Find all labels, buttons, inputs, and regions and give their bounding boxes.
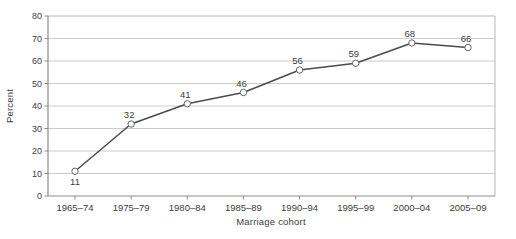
x-tick-label-5: 1995–99: [337, 202, 374, 213]
y-tick-label-30: 30: [32, 124, 42, 134]
x-tick-label-4: 1990–94: [281, 202, 318, 213]
y-tick-label-60: 60: [32, 56, 42, 66]
y-tick-label-20: 20: [32, 146, 42, 156]
y-tick-label-80: 80: [32, 11, 42, 21]
marriage-cohort-line-chart: 010203040506070801965–741975–791980–8419…: [0, 0, 516, 239]
x-tick-label-6: 2000–04: [393, 202, 430, 213]
x-tick-label-3: 1985–89: [225, 202, 262, 213]
x-tick-label-0: 1965–74: [57, 202, 94, 213]
y-axis-title: Percent: [4, 89, 15, 123]
x-tick-label-1: 1975–79: [113, 202, 150, 213]
data-point-label-6: 68: [405, 28, 416, 39]
data-point-marker-3: [240, 89, 246, 95]
chart-container: 010203040506070801965–741975–791980–8419…: [0, 0, 516, 239]
y-tick-label-50: 50: [32, 79, 42, 89]
series-layer: [72, 40, 471, 175]
data-point-marker-0: [72, 168, 78, 174]
y-tick-label-0: 0: [37, 191, 42, 201]
y-tick-label-40: 40: [32, 101, 42, 111]
data-point-label-3: 46: [236, 78, 247, 89]
data-point-label-4: 56: [292, 55, 303, 66]
x-axis-title: Marriage cohort: [236, 216, 306, 227]
series-line: [75, 43, 468, 171]
data-point-marker-5: [353, 60, 359, 66]
data-label-layer: 1132414656596866: [70, 28, 471, 187]
data-point-label-2: 41: [180, 89, 191, 100]
x-tick-label-7: 2005–09: [450, 202, 487, 213]
data-point-label-1: 32: [124, 109, 135, 120]
y-tick-label-10: 10: [32, 169, 42, 179]
data-point-label-5: 59: [348, 48, 359, 59]
x-tick-label-2: 1980–84: [169, 202, 206, 213]
data-point-marker-6: [409, 40, 415, 46]
data-point-marker-4: [296, 67, 302, 73]
data-point-marker-1: [128, 121, 134, 127]
grid-layer: [48, 39, 495, 174]
y-tick-label-70: 70: [32, 34, 42, 44]
data-point-marker-7: [465, 44, 471, 50]
data-point-marker-2: [184, 101, 190, 107]
tick-label-layer: 010203040506070801965–741975–791980–8419…: [32, 11, 487, 213]
data-point-label-0: 11: [70, 176, 80, 187]
data-point-label-7: 66: [461, 33, 472, 44]
